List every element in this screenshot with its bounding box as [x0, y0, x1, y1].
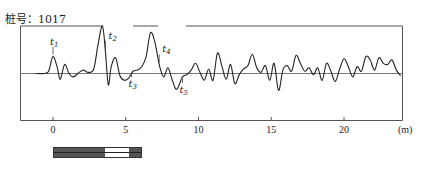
annotation-label-t4: t4 — [162, 43, 171, 56]
waveform-line — [36, 26, 401, 91]
x-tick-label: 15 — [266, 124, 276, 135]
x-tick-label: 0 — [51, 124, 56, 135]
pile-outline — [53, 147, 142, 158]
annotation-label-t5: t5 — [179, 84, 188, 97]
annotation-label-t3: t3 — [129, 78, 138, 91]
x-tick-label: 5 — [123, 124, 128, 135]
annotation-label-t1: t1 — [50, 36, 59, 49]
x-unit-label: (m) — [398, 124, 412, 136]
waveform-chart: 05101520 t1t2t3t4t5 (m) — [0, 0, 422, 140]
x-tick-label: 20 — [339, 124, 349, 135]
x-tick-label: 10 — [194, 124, 204, 135]
pile-diagram — [53, 147, 142, 158]
annotation-label-t2: t2 — [108, 30, 117, 43]
x-axis-ticks: 05101520 — [51, 117, 350, 135]
annotation-markers: t1t2t3t4t5 — [50, 30, 189, 97]
